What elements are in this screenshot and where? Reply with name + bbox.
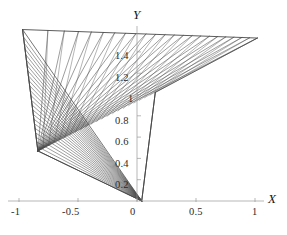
y-tick-label: 0.8 [115,116,129,127]
family-segment [139,37,234,100]
x-tick-label: -0.5 [62,207,79,218]
x-tick-label: 1 [252,207,257,218]
y-tick-label: 0.2 [115,180,129,191]
plot-figure: -1 -0.5 0 0.5 1 0.2 0.4 0.6 0.8 1 1.2 1.… [0,0,287,235]
x-tick-label: 0 [130,207,135,218]
family-segment [38,30,48,150]
x-axis-title: X [268,192,276,205]
line-family [23,30,258,201]
family-segment [129,37,218,106]
y-tick-label: 1 [128,94,133,105]
y-tick-label: 1.2 [115,73,129,84]
family-segment [37,146,141,201]
family-segment [142,92,156,201]
family-segment [23,30,258,39]
y-tick-label: 0.4 [115,159,129,170]
family-segment [134,37,226,103]
family-segment [155,38,257,92]
y-tick-label: 0.6 [115,137,129,148]
y-tick-label: 1.4 [115,51,129,62]
plot-canvas [0,0,287,235]
family-segment [145,37,242,97]
y-axis-title: Y [133,8,140,21]
family-segment [38,38,250,151]
x-tick-label: 0.5 [189,207,203,218]
family-segment [97,35,166,122]
family-segment [123,36,209,108]
x-tick-label: -1 [11,207,20,218]
